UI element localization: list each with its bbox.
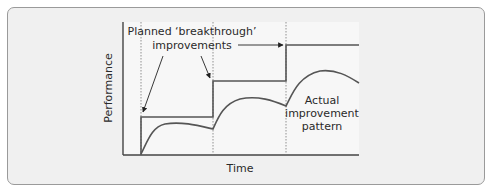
planned-label-line1: Planned ‘breakthrough’	[128, 25, 257, 38]
actual-label-line3: pattern	[302, 120, 342, 133]
breakthrough-improvement-diagram: Planned ‘breakthrough’ improvements Actu…	[0, 0, 494, 193]
planned-label-line2: improvements	[152, 39, 232, 52]
actual-label-line2: improvement	[285, 107, 359, 120]
actual-label-line1: Actual	[305, 94, 339, 107]
x-axis-label: Time	[226, 162, 254, 175]
y-axis-label: Performance	[102, 53, 115, 123]
